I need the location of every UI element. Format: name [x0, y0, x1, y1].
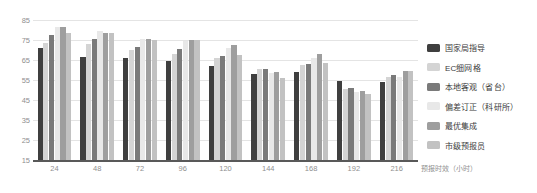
y-axis-tick-label: 55 — [2, 76, 30, 85]
legend-swatch-icon — [427, 83, 440, 91]
bar-group — [290, 20, 333, 160]
bar — [129, 50, 134, 160]
bar — [103, 33, 108, 160]
bar — [183, 41, 188, 160]
legend-item-label: EC细网格 — [445, 62, 481, 73]
bar — [343, 89, 348, 160]
bar — [323, 63, 328, 160]
bar — [38, 48, 43, 160]
bar — [269, 73, 274, 160]
bar — [55, 27, 60, 160]
bar — [123, 58, 128, 160]
legend-item[interactable]: 最优集成 — [427, 116, 535, 136]
plot-area — [33, 20, 418, 160]
bar — [66, 33, 71, 160]
bar-group — [119, 20, 162, 160]
bar — [109, 33, 114, 160]
legend-item-label: 国家局指导 — [445, 42, 486, 53]
bar — [403, 71, 408, 160]
legend-item[interactable]: EC细网格 — [427, 58, 535, 78]
legend-item[interactable]: 国家局指导 — [427, 38, 535, 58]
legend-item-label: 最优集成 — [445, 120, 477, 131]
bar — [237, 55, 242, 160]
bar — [60, 27, 65, 160]
x-axis-title: 预报时效（小时） — [421, 161, 477, 177]
bar — [257, 69, 262, 160]
bar — [189, 40, 194, 160]
bar — [49, 35, 54, 160]
bar — [177, 49, 182, 160]
bar-group — [33, 20, 76, 160]
y-axis-tick-label: 75 — [2, 36, 30, 45]
bar — [317, 54, 322, 160]
bar — [231, 45, 236, 160]
bar — [380, 82, 385, 160]
bar — [43, 43, 48, 160]
bar — [209, 66, 214, 160]
x-axis-tick-label: 216 — [375, 161, 418, 177]
x-axis-tick-label: 72 — [119, 161, 162, 177]
bar — [86, 44, 91, 160]
bar — [354, 92, 359, 160]
bar — [226, 48, 231, 160]
bar-group — [76, 20, 119, 160]
legend-swatch-icon — [427, 102, 440, 110]
y-axis-tick-label: 15 — [2, 156, 30, 165]
legend-item-label: 本地客观（省台） — [445, 81, 510, 92]
bar — [152, 40, 157, 160]
bar — [274, 72, 279, 160]
bar — [391, 75, 396, 160]
bar-group — [332, 20, 375, 160]
x-axis-tick-label: 120 — [204, 161, 247, 177]
legend-item-label: 市级预报员 — [445, 140, 486, 151]
legend-swatch-icon — [427, 122, 440, 130]
legend-item[interactable]: 市级预报员 — [427, 136, 535, 156]
bar — [408, 71, 413, 160]
legend-swatch-icon — [427, 141, 440, 149]
bar-chart: 1525354555657585 24487296120144168192216… — [0, 0, 537, 193]
legend: 国家局指导EC细网格本地客观（省台）偏差订正（科研所）最优集成市级预报员 — [427, 38, 535, 155]
bar-group — [375, 20, 418, 160]
bar — [220, 56, 225, 160]
x-axis-tick-label: 144 — [247, 161, 290, 177]
x-axis-ticks: 24487296120144168192216 — [33, 161, 418, 177]
x-axis-tick-label: 168 — [290, 161, 333, 177]
bar — [300, 65, 305, 160]
bar — [360, 91, 365, 160]
bar — [172, 54, 177, 160]
bar — [251, 74, 256, 160]
bar — [166, 61, 171, 160]
x-axis-tick-label: 48 — [76, 161, 119, 177]
bar — [92, 39, 97, 160]
y-axis-tick-label: 85 — [2, 16, 30, 25]
bar — [397, 77, 402, 160]
bar — [311, 58, 316, 160]
y-axis-tick-label: 65 — [2, 56, 30, 65]
bar-group — [161, 20, 204, 160]
y-axis-tick-label: 35 — [2, 116, 30, 125]
bar — [214, 58, 219, 160]
bar-group — [204, 20, 247, 160]
legend-item[interactable]: 偏差订正（科研所） — [427, 97, 535, 117]
legend-item-label: 偏差订正（科研所） — [445, 101, 518, 112]
bar — [294, 72, 299, 160]
y-axis-tick-label: 45 — [2, 96, 30, 105]
x-axis-tick-label: 96 — [161, 161, 204, 177]
bar-groups — [33, 20, 418, 160]
bar — [146, 39, 151, 160]
legend-swatch-icon — [427, 44, 440, 52]
bar — [386, 77, 391, 160]
bar — [280, 78, 285, 160]
y-axis-tick-label: 25 — [2, 136, 30, 145]
x-axis-tick-label: 192 — [332, 161, 375, 177]
bar — [263, 69, 268, 160]
bar — [348, 88, 353, 160]
bar — [135, 47, 140, 160]
y-axis-ticks: 1525354555657585 — [0, 20, 30, 160]
bar — [337, 81, 342, 160]
x-axis-tick-label: 24 — [33, 161, 76, 177]
legend-swatch-icon — [427, 63, 440, 71]
bar — [140, 39, 145, 160]
legend-item[interactable]: 本地客观（省台） — [427, 77, 535, 97]
bar — [194, 40, 199, 160]
